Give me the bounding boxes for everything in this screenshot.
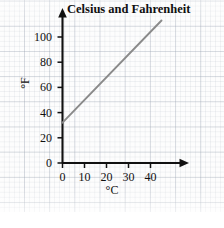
chart-title: Celsius and Fahrenheit — [67, 3, 190, 16]
x-tick-label-0: 0 — [51, 171, 75, 183]
x-tick-label-10: 10 — [73, 171, 97, 183]
y-tick-label-0: 0 — [22, 157, 52, 169]
y-tick-label-20: 20 — [22, 132, 52, 144]
y-axis-title: °F — [19, 66, 31, 100]
x-axis-title: °C — [98, 184, 126, 196]
y-axis-arrowhead — [58, 8, 67, 18]
y-tick-label-100: 100 — [22, 31, 52, 43]
x-axis-arrowhead — [180, 159, 190, 167]
chart-screenshot: Celsius and Fahrenheit 0 20 40 60 80 100… — [0, 0, 224, 228]
y-tick-label-40: 40 — [22, 107, 52, 119]
x-tick-label-20: 20 — [95, 171, 119, 183]
data-line-celsius-fahrenheit — [63, 21, 162, 123]
x-tick-label-40: 40 — [139, 171, 163, 183]
x-tick-label-30: 30 — [117, 171, 141, 183]
